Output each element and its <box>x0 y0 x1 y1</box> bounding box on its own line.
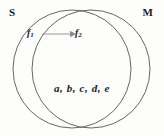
function-label-source-subscript: 1 <box>30 31 34 39</box>
function-label-target-subscript: 2 <box>78 31 82 39</box>
mapping-arrow <box>42 31 76 37</box>
set-label-s: S <box>9 7 15 18</box>
function-label-source: f1 <box>27 28 34 39</box>
intersection-elements: a, b, c, d, e <box>0 82 164 94</box>
circle-set-m <box>32 10 150 128</box>
venn-diagram: S M f1 f2 a, b, c, d, e <box>0 0 164 136</box>
venn-circles-svg <box>0 0 164 136</box>
function-label-target: f2 <box>75 28 82 39</box>
set-label-m: M <box>142 7 153 18</box>
